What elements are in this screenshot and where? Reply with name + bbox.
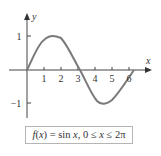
- y-axis-arrow-icon: [24, 13, 30, 20]
- y-tick-label-minus-1: −1: [11, 98, 22, 109]
- x-tick-label-4: 4: [93, 73, 98, 84]
- caption-f: f: [32, 129, 35, 140]
- caption-end: ≤ 2π: [104, 129, 126, 140]
- x-tick-label-6: 6: [127, 73, 132, 84]
- x-tick-label-1: 1: [42, 73, 47, 84]
- caption-sin: ) = sin: [44, 129, 74, 140]
- x-axis-arrow-icon: [145, 67, 152, 73]
- y-tick-label-1: 1: [17, 31, 22, 42]
- function-caption: f(x) = sin x, 0 ≤ x ≤ 2π: [25, 126, 133, 144]
- y-axis-label: y: [31, 11, 37, 22]
- caption-range: , 0 ≤: [78, 129, 100, 140]
- x-tick-label-5: 5: [110, 73, 115, 84]
- x-tick-label-3: 3: [76, 73, 81, 84]
- x-tick-label-2: 2: [59, 73, 64, 84]
- x-axis-label: x: [145, 55, 151, 66]
